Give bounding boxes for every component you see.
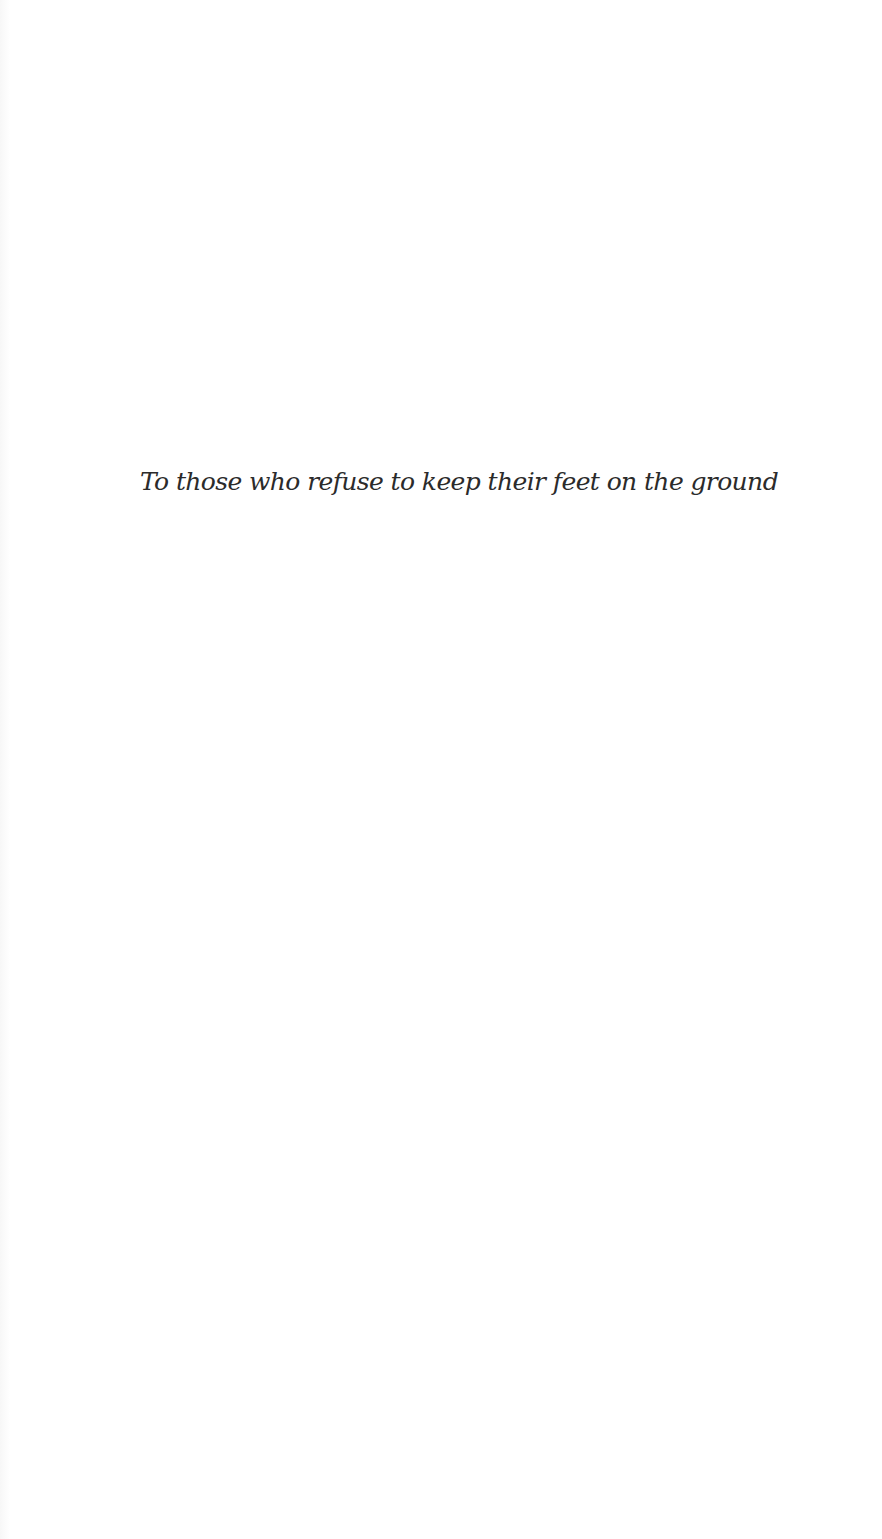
page-gutter-edge [0,0,10,1539]
book-page: To those who refuse to keep their feet o… [0,0,882,1539]
dedication-text: To those who refuse to keep their feet o… [0,462,882,502]
